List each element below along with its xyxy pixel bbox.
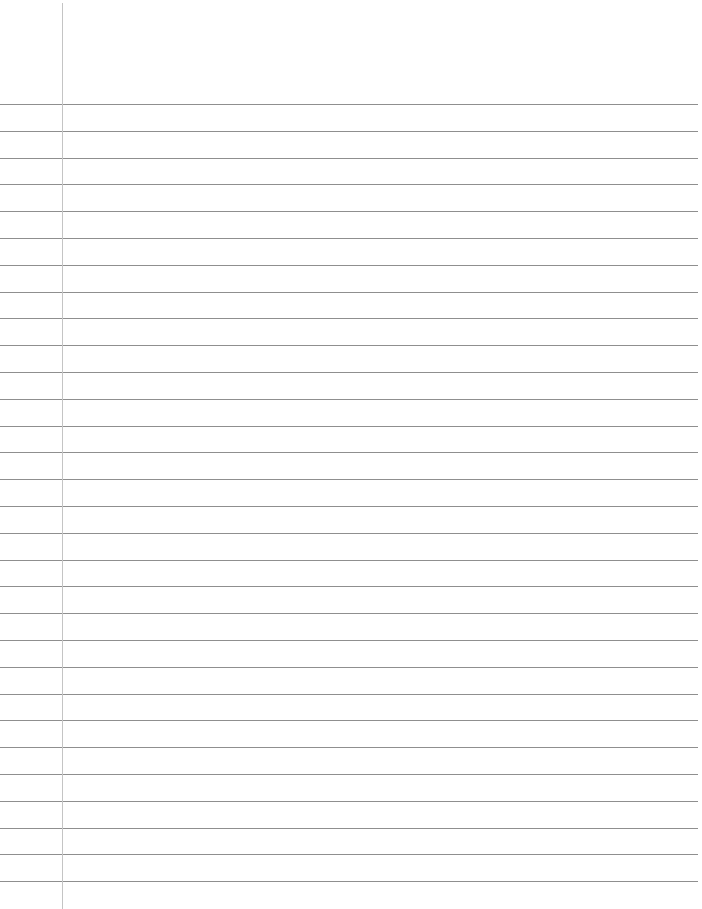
- rule-line-margin-segment: [0, 720, 62, 721]
- rule-line: [63, 560, 698, 561]
- ruled-paper-page: [0, 0, 702, 909]
- rule-line: [63, 881, 698, 882]
- rule-line: [63, 265, 698, 266]
- rule-line-margin-segment: [0, 265, 62, 266]
- rule-line: [63, 238, 698, 239]
- rule-line: [63, 372, 698, 373]
- rule-line-margin-segment: [0, 533, 62, 534]
- rule-line-margin-segment: [0, 667, 62, 668]
- rule-line: [63, 694, 698, 695]
- rule-line: [63, 854, 698, 855]
- rule-line-margin-segment: [0, 586, 62, 587]
- rule-line-margin-segment: [0, 292, 62, 293]
- rule-line: [63, 318, 698, 319]
- rule-line-margin-segment: [0, 694, 62, 695]
- rule-line-margin-segment: [0, 747, 62, 748]
- rule-line: [63, 345, 698, 346]
- rule-line: [63, 452, 698, 453]
- rule-line: [63, 720, 698, 721]
- rule-line-margin-segment: [0, 452, 62, 453]
- rule-line-margin-segment: [0, 399, 62, 400]
- rule-line-margin-segment: [0, 640, 62, 641]
- rule-line-margin-segment: [0, 560, 62, 561]
- rule-line: [63, 131, 698, 132]
- rule-line: [63, 747, 698, 748]
- rule-line: [63, 667, 698, 668]
- rule-line: [63, 211, 698, 212]
- rule-line: [63, 533, 698, 534]
- rule-line-margin-segment: [0, 372, 62, 373]
- rule-line-margin-segment: [0, 238, 62, 239]
- rule-line-margin-segment: [0, 506, 62, 507]
- rule-line: [63, 426, 698, 427]
- rule-line-margin-segment: [0, 613, 62, 614]
- rule-line-margin-segment: [0, 426, 62, 427]
- rule-line: [63, 479, 698, 480]
- rule-line-margin-segment: [0, 854, 62, 855]
- rule-line-margin-segment: [0, 881, 62, 882]
- rule-line: [63, 158, 698, 159]
- rule-line: [63, 506, 698, 507]
- rule-line-margin-segment: [0, 131, 62, 132]
- rule-line: [63, 586, 698, 587]
- rule-line: [63, 399, 698, 400]
- rule-line-margin-segment: [0, 345, 62, 346]
- rule-line: [63, 104, 698, 105]
- rule-line-margin-segment: [0, 774, 62, 775]
- rule-line-margin-segment: [0, 318, 62, 319]
- rule-line-margin-segment: [0, 479, 62, 480]
- rule-line: [63, 640, 698, 641]
- rule-line-margin-segment: [0, 158, 62, 159]
- rule-line: [63, 613, 698, 614]
- rule-line-margin-segment: [0, 184, 62, 185]
- rule-line-margin-segment: [0, 828, 62, 829]
- rule-line: [63, 774, 698, 775]
- rule-line: [63, 184, 698, 185]
- rule-line-margin-segment: [0, 211, 62, 212]
- rule-line: [63, 828, 698, 829]
- rule-line: [63, 292, 698, 293]
- rule-line-margin-segment: [0, 801, 62, 802]
- rule-line: [63, 801, 698, 802]
- rule-line-margin-segment: [0, 104, 62, 105]
